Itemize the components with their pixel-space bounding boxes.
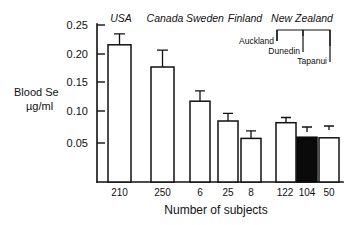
y-tick-label-3: 0.10 (67, 105, 88, 117)
n-label-dunedin: 104 (299, 187, 316, 198)
bar-group-dunedin (297, 127, 317, 182)
y-axis-label-line1: Blood Se (14, 86, 59, 98)
blood-selenium-bar-chart: Blood Se µg/ml 0.25 0.20 0.15 0.10 0.05 (0, 0, 358, 225)
group-label-sweden: Sweden (186, 12, 224, 24)
bar-dunedin (297, 137, 317, 182)
bar-group-tapanui (319, 126, 339, 182)
group-label-usa: USA (110, 12, 132, 24)
y-tick-label-4: 0.05 (67, 137, 88, 149)
group-label-new-zealand: New Zealand (271, 12, 334, 24)
error-bar-finland-25 (223, 113, 233, 121)
bar-sweden (190, 101, 210, 182)
bar-group-auckland (276, 118, 296, 183)
y-tick-label-0: 0.25 (67, 19, 88, 31)
error-bar-usa (114, 34, 125, 45)
bar-group-finland-25 (218, 113, 238, 182)
bar-auckland (276, 123, 296, 182)
n-label-usa: 210 (111, 187, 128, 198)
bar-usa (108, 45, 131, 182)
error-bar-dunedin (302, 127, 312, 132)
group-label-canada: Canada (147, 12, 184, 24)
error-bar-auckland (281, 118, 291, 123)
error-bar-finland-8 (246, 131, 256, 139)
city-label-tapanui: Tapanui (297, 56, 327, 66)
n-label-auckland: 122 (277, 187, 294, 198)
bar-canada (151, 67, 174, 182)
bar-tapanui (319, 138, 339, 182)
n-label-finland-8: 8 (248, 187, 254, 198)
bar-finland-8 (241, 138, 261, 182)
y-axis-label-line2: µg/ml (26, 100, 53, 112)
bar-group-canada (151, 50, 174, 182)
group-label-finland: Finland (228, 12, 264, 24)
bar-group-finland-8 (241, 131, 261, 182)
y-tick-label-2: 0.15 (67, 76, 88, 88)
bar-group-sweden (190, 91, 210, 182)
n-label-tapanui: 50 (323, 187, 335, 198)
error-bar-canada (157, 50, 168, 67)
bar-group-usa (108, 34, 131, 182)
chart-canvas: Blood Se µg/ml 0.25 0.20 0.15 0.10 0.05 (0, 0, 358, 225)
n-label-finland-25: 25 (222, 187, 234, 198)
error-bar-tapanui (324, 126, 334, 130)
n-label-sweden: 6 (197, 187, 203, 198)
bar-finland-25 (218, 121, 238, 182)
city-label-dunedin: Dunedin (268, 46, 300, 56)
n-label-canada: 250 (154, 187, 171, 198)
y-tick-label-1: 0.20 (67, 48, 88, 60)
city-label-auckland: Auckland (239, 36, 274, 46)
error-bar-sweden (195, 91, 205, 101)
x-axis-title: Number of subjects (164, 203, 267, 217)
